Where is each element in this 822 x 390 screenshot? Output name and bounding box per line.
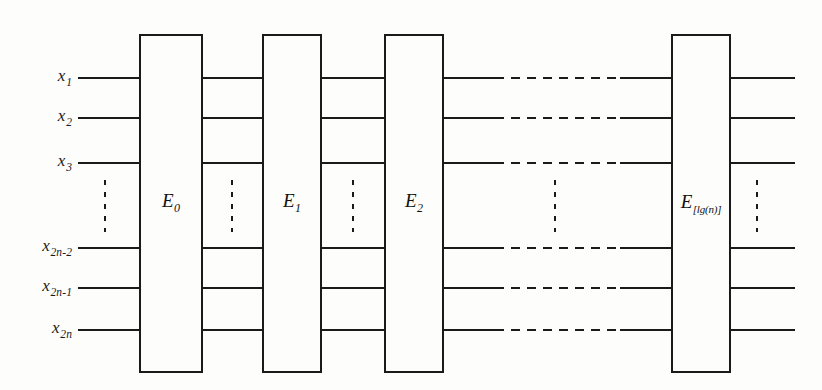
stage-label-subscript: [lg(n)] [692, 202, 721, 214]
wire-label-2n: x2n [52, 319, 72, 340]
wire-label-base: x [58, 151, 66, 170]
wire-label-base: x [42, 236, 50, 255]
wire-label-subscript: 2n-1 [50, 286, 72, 298]
network-diagram-figure: x1x2x3x2n-2x2n-1x2n E0E1E2E[lg(n)] [0, 0, 822, 390]
wire-label-subscript: 2n-2 [50, 246, 72, 258]
wire-label-base: x [58, 66, 66, 85]
stage-label: E2 [405, 191, 423, 214]
wire-label-base: x [52, 318, 60, 337]
wire-label-2n2: x2n-2 [42, 237, 72, 258]
wire-label-base: x [42, 276, 50, 295]
wire-label-subscript: 3 [66, 161, 72, 173]
wire-label-subscript: 1 [66, 76, 72, 88]
wire-label-2: x2 [58, 107, 72, 128]
stage-label-base: E [405, 190, 417, 211]
wire-label-subscript: 2 [66, 116, 72, 128]
stage-label-subscript: 1 [295, 202, 302, 216]
stage-label-subscript: 2 [417, 202, 424, 216]
wire-label-2n1: x2n-1 [42, 277, 72, 298]
stage-label-base: E [162, 190, 174, 211]
stage-label: E1 [283, 191, 301, 214]
stage-label-base: E [283, 190, 295, 211]
stage-label: E[lg(n)] [681, 192, 722, 215]
wire-label-subscript: 2n [60, 328, 72, 340]
wire-label-base: x [58, 106, 66, 125]
stage-label-subscript: 0 [174, 202, 181, 216]
stage-label: E0 [162, 191, 180, 214]
wire-label-3: x3 [58, 152, 72, 173]
stage-label-base: E [681, 191, 693, 212]
stage-box-layer [140, 35, 730, 372]
wire-label-1: x1 [58, 67, 72, 88]
